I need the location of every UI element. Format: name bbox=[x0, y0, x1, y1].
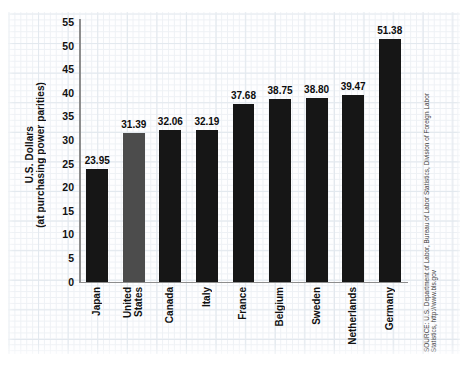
x-axis-category-label-line: Belgium bbox=[275, 287, 285, 326]
y-axis-tick-label: 50 bbox=[50, 40, 74, 51]
y-axis-tick-label: 25 bbox=[50, 158, 74, 169]
bar-value-label: 38.75 bbox=[268, 86, 293, 96]
bar-value-label: 32.19 bbox=[194, 117, 219, 127]
bar-chart-figure: U.S. Dollars (at purchasing power pariti… bbox=[0, 0, 466, 365]
bar-group: 32.06 bbox=[159, 22, 181, 282]
bar-group: 32.19 bbox=[196, 22, 218, 282]
x-axis-category-label-line: United bbox=[123, 287, 133, 318]
y-axis-tick-label: 15 bbox=[50, 206, 74, 217]
bar-value-label: 39.47 bbox=[341, 82, 366, 92]
x-axis-category-label: Sweden bbox=[298, 287, 335, 353]
bar-group: 37.68 bbox=[233, 22, 255, 282]
x-axis-category-label: France bbox=[225, 287, 262, 353]
bar-group: 38.75 bbox=[269, 22, 291, 282]
bar-value-label: 31.39 bbox=[121, 120, 146, 130]
x-axis-category-label-line: Netherlands bbox=[348, 287, 358, 345]
bar-group: 23.95 bbox=[86, 22, 108, 282]
source-note: SOURCE: U.S. Department of Labor, Bureau… bbox=[424, 170, 458, 352]
y-axis-tick-labels: 0510152025303540455055 bbox=[50, 22, 74, 283]
bar[interactable] bbox=[86, 169, 108, 282]
y-axis-tick-label: 10 bbox=[50, 229, 74, 240]
bar-group: 51.38 bbox=[379, 22, 401, 282]
y-axis-tick-label: 0 bbox=[50, 276, 74, 287]
bar[interactable] bbox=[159, 130, 181, 281]
bar-value-label: 37.68 bbox=[231, 91, 256, 101]
source-note-line-2: Statistics, http://www.bls.gov bbox=[431, 270, 437, 352]
bar[interactable] bbox=[233, 104, 255, 282]
plot-area: 23.9531.3932.0632.1937.6838.7538.8039.47… bbox=[79, 22, 408, 283]
x-axis-category-label: UnitedStates bbox=[116, 287, 153, 353]
bar-group: 31.39 bbox=[123, 22, 145, 282]
x-axis-category-label: Germany bbox=[371, 287, 408, 353]
bar[interactable] bbox=[196, 130, 218, 282]
x-axis-category-label-line: Japan bbox=[92, 287, 102, 316]
x-axis-category-label-line: Germany bbox=[385, 287, 395, 330]
bar-value-label: 38.80 bbox=[304, 85, 329, 95]
x-axis-category-label: Canada bbox=[152, 287, 189, 353]
x-axis-category-label: Netherlands bbox=[335, 287, 372, 353]
bar-value-label: 51.38 bbox=[377, 26, 402, 36]
x-axis-category-label-line: Sweden bbox=[312, 287, 322, 325]
y-axis-tick-label: 55 bbox=[50, 17, 74, 28]
y-axis-title-line-1: U.S. Dollars bbox=[25, 126, 35, 183]
x-axis-category-label: Belgium bbox=[262, 287, 299, 353]
x-axis-category-label-line: Italy bbox=[202, 287, 212, 307]
x-axis-category-label: Italy bbox=[189, 287, 226, 353]
y-axis-title-line-2: (at purchasing power parities) bbox=[36, 82, 46, 228]
x-axis-category-labels: JapanUnitedStatesCanadaItalyFranceBelgiu… bbox=[79, 287, 408, 353]
y-axis-tick-label: 35 bbox=[50, 111, 74, 122]
bar-value-label: 32.06 bbox=[158, 117, 183, 127]
bar[interactable] bbox=[269, 99, 291, 282]
x-axis-category-label: Japan bbox=[79, 287, 116, 353]
bar-value-label: 23.95 bbox=[85, 156, 110, 166]
y-axis-tick-label: 45 bbox=[50, 64, 74, 75]
bar[interactable] bbox=[342, 95, 364, 281]
bars-layer: 23.9531.3932.0632.1937.6838.7538.8039.47… bbox=[79, 22, 408, 283]
y-axis-tick-label: 30 bbox=[50, 135, 74, 146]
x-axis-category-label-line: France bbox=[238, 287, 248, 320]
y-axis-tick-label: 5 bbox=[50, 253, 74, 264]
x-axis-category-label-line: Canada bbox=[165, 287, 175, 323]
bar[interactable] bbox=[379, 39, 401, 282]
y-axis-tick-label: 40 bbox=[50, 88, 74, 99]
bar[interactable] bbox=[306, 98, 328, 281]
bar-group: 38.80 bbox=[306, 22, 328, 282]
x-axis-category-label-line: States bbox=[134, 287, 144, 317]
bar-group: 39.47 bbox=[342, 22, 364, 282]
y-axis-tick-label: 20 bbox=[50, 182, 74, 193]
bar[interactable] bbox=[123, 133, 145, 281]
